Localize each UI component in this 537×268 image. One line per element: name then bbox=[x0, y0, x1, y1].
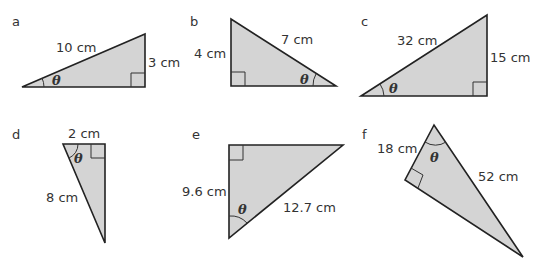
triangle-a: a θ 10 cm 3 cm bbox=[12, 14, 180, 88]
theta-c: θ bbox=[389, 81, 398, 96]
triangles-figure: a θ 10 cm 3 cm b θ 7 cm 4 cm c θ 32 cm 1… bbox=[0, 0, 537, 268]
hypotenuse-f: 52 cm bbox=[478, 169, 519, 184]
theta-b: θ bbox=[300, 72, 309, 87]
triangle-f: f θ 18 cm 52 cm bbox=[362, 125, 523, 257]
hypotenuse-b: 7 cm bbox=[281, 32, 313, 47]
hypotenuse-a: 10 cm bbox=[56, 40, 97, 55]
label-d: d bbox=[12, 127, 20, 142]
label-e: e bbox=[192, 127, 200, 142]
triangle-c: c θ 32 cm 15 cm bbox=[361, 14, 531, 96]
triangle-e-shape bbox=[229, 145, 343, 238]
label-a: a bbox=[12, 14, 20, 29]
label-f: f bbox=[362, 127, 367, 142]
triangle-c-shape bbox=[361, 15, 487, 96]
label-b: b bbox=[190, 14, 198, 29]
triangle-d: d θ 2 cm 8 cm bbox=[12, 126, 105, 243]
side-f: 18 cm bbox=[377, 141, 418, 156]
theta-f: θ bbox=[430, 150, 439, 165]
hypotenuse-d: 8 cm bbox=[46, 190, 78, 205]
side-d: 2 cm bbox=[68, 126, 100, 141]
triangle-b-shape bbox=[231, 19, 336, 86]
side-a: 3 cm bbox=[148, 55, 180, 70]
theta-d: θ bbox=[74, 151, 83, 166]
hypotenuse-e: 12.7 cm bbox=[283, 200, 336, 215]
triangle-f-shape bbox=[405, 125, 523, 257]
hypotenuse-c: 32 cm bbox=[397, 33, 438, 48]
side-b: 4 cm bbox=[194, 46, 226, 61]
triangle-e: e θ 9.6 cm 12.7 cm bbox=[182, 127, 343, 238]
side-c: 15 cm bbox=[490, 50, 531, 65]
theta-e: θ bbox=[238, 202, 247, 217]
side-e: 9.6 cm bbox=[182, 184, 227, 199]
theta-a: θ bbox=[52, 73, 61, 88]
label-c: c bbox=[361, 14, 368, 29]
triangle-b: b θ 7 cm 4 cm bbox=[190, 14, 336, 87]
